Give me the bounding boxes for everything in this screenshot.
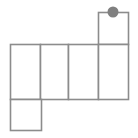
figure-canvas: [0, 0, 138, 138]
vertex-dot-icon: [108, 7, 119, 18]
bottom-square: [11, 100, 42, 131]
middle-cell-1: [11, 45, 41, 100]
middle-cell-3: [69, 45, 99, 100]
middle-cell-4: [99, 45, 129, 100]
cube-net-diagram: [0, 0, 138, 138]
middle-cell-2: [41, 45, 69, 100]
